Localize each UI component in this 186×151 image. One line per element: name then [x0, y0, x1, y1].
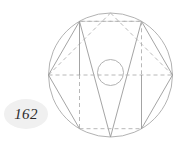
inner-circle — [98, 60, 124, 86]
star-edge-lr-right — [142, 75, 173, 129]
figure-number-text: 162 — [14, 107, 37, 122]
figure-number-label: 162 — [4, 99, 48, 129]
star-edge-left-ll — [49, 75, 80, 129]
triangle-down-edge-right — [111, 21, 142, 137]
figure-page: 162 — [0, 0, 186, 151]
triangle-down-edge-left — [80, 21, 111, 137]
